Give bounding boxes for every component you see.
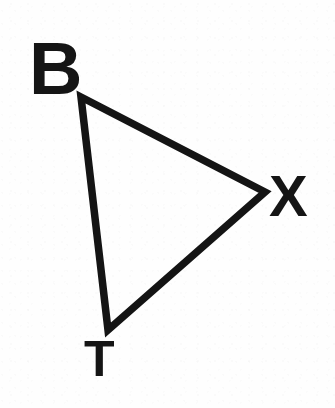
vertex-label-b: B — [29, 32, 81, 106]
triangle-outline — [81, 97, 265, 330]
geometry-figure: B X T — [0, 0, 335, 408]
vertex-label-t: T — [84, 334, 114, 384]
vertex-label-x: X — [269, 167, 307, 225]
